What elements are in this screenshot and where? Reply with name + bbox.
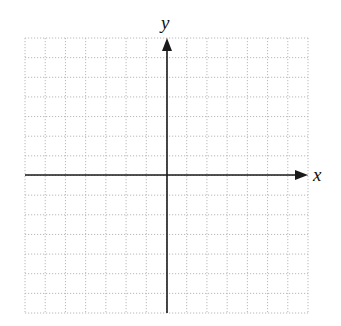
x-axis-arrow-icon [295,170,308,180]
y-axis-label: y [159,12,170,33]
y-axis-arrow-icon [162,38,172,51]
x-axis-label: x [312,164,322,185]
coordinate-plane: x y [0,0,341,326]
